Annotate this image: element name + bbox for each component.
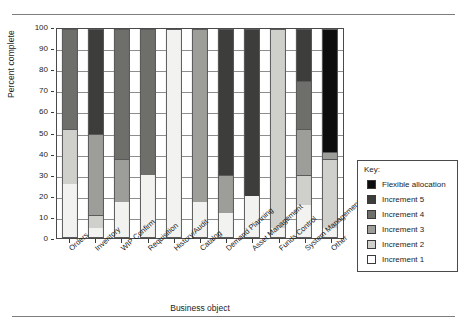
y-tick-label: 50 [22,130,48,138]
legend-row: Increment 3 [363,222,452,237]
x-axis-labels: OrdersInventoryWIP ConfirmRequisitionHis… [0,20,467,110]
legend-entries: Flexible allocationIncrement 5Increment … [363,177,452,267]
legend-label: Increment 1 [382,255,424,264]
legend-row: Increment 1 [363,252,452,267]
legend-row: Increment 5 [363,192,452,207]
legend-row: Increment 2 [363,237,452,252]
legend-row: Flexible allocation [363,177,452,192]
y-tick-label: 30 [22,172,48,180]
legend-label: Increment 4 [382,210,424,219]
legend-label: Increment 3 [382,225,424,234]
y-tick-label: 10 [22,214,48,222]
bar-segment [322,152,338,158]
plot-area: Percent complete 0102030405060708090100 … [0,20,467,310]
bar-segment [62,184,78,238]
bar-segment [218,175,234,213]
bar-segment [62,129,78,183]
y-tick-mark [51,197,54,198]
bar-segment [114,159,130,203]
bar-segment [88,134,104,216]
y-tick-label: 0 [22,235,48,243]
bar-segment [296,129,312,175]
bar-segment [88,215,104,228]
y-tick-mark [51,112,54,113]
legend-row: Increment 4 [363,207,452,222]
legend-label: Increment 2 [382,240,424,249]
bottom-divider [12,316,455,317]
legend-swatch [367,255,376,264]
legend-title: Key: [364,165,452,174]
legend-swatch [367,195,376,204]
bar-segment [296,175,312,204]
legend-swatch [367,180,376,189]
legend: Key: Flexible allocationIncrement 5Incre… [357,160,458,272]
legend-swatch [367,240,376,249]
y-tick-label: 40 [22,151,48,159]
y-tick-mark [51,155,54,156]
chart-page: Percent complete 0102030405060708090100 … [0,0,467,331]
legend-swatch [367,210,376,219]
y-tick-label: 20 [22,193,48,201]
y-tick-mark [51,134,54,135]
legend-label: Increment 5 [382,195,424,204]
y-tick-mark [51,176,54,177]
top-divider [12,14,455,15]
x-axis-title: Business object [0,303,400,313]
legend-swatch [367,225,376,234]
y-tick-mark [51,239,54,240]
y-tick-mark [51,218,54,219]
legend-label: Flexible allocation [382,180,446,189]
